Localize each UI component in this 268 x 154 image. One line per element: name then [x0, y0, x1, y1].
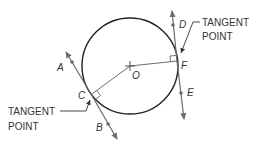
- point-d: [171, 23, 175, 27]
- callout-leader-lower: [60, 100, 90, 111]
- label-d: D: [179, 19, 186, 30]
- point-a: [70, 60, 74, 64]
- callout-lower-line2: POINT: [8, 121, 39, 132]
- radius-of: [130, 61, 177, 66]
- label-c: C: [78, 90, 86, 101]
- tangent-line-acb-lower: [91, 94, 117, 139]
- label-e: E: [187, 87, 194, 98]
- label-o: O: [132, 70, 140, 81]
- label-a: A: [56, 62, 64, 73]
- point-e: [179, 91, 183, 95]
- callout-upper-line1: TANGENT: [202, 17, 249, 28]
- callout-lower-line1: TANGENT: [8, 106, 55, 117]
- tangent-line-acb: [66, 52, 91, 94]
- label-f: F: [181, 60, 188, 71]
- radius-oc: [92, 66, 130, 94]
- tangent-line-dfe: [172, 11, 177, 61]
- tangent-diagram: A B C D E F O TANGENT POINT TANGENT POIN…: [0, 0, 268, 154]
- point-b: [106, 122, 110, 126]
- callout-upper-line2: POINT: [202, 31, 233, 42]
- right-angle-c: [96, 91, 101, 100]
- label-b: B: [96, 122, 103, 133]
